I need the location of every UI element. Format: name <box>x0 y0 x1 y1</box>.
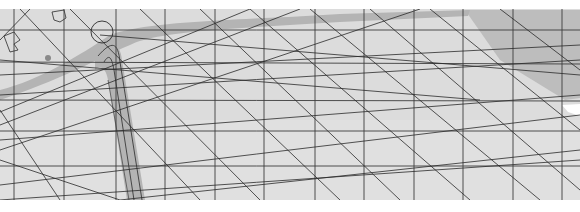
top-border <box>0 0 580 9</box>
bottom-border <box>0 200 580 212</box>
site-plan-drawing <box>0 0 580 212</box>
drawing-svg <box>0 0 580 212</box>
